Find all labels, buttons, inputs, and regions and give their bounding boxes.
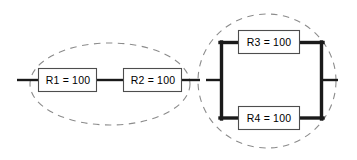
resistor-r3-label: R3 = 100 [247, 36, 292, 48]
resistor-r4: R4 = 100 [239, 107, 300, 130]
resistor-r2-label: R2 = 100 [131, 74, 176, 86]
resistor-r1-label: R1 = 100 [46, 74, 91, 86]
circuit-diagram: R1 = 100 R2 = 100 R3 = 100 R4 = 100 [0, 0, 357, 160]
resistor-r4-label: R4 = 100 [247, 112, 292, 124]
resistor-r2: R2 = 100 [124, 69, 182, 92]
resistor-r3: R3 = 100 [239, 31, 300, 54]
circuit-canvas: R1 = 100 R2 = 100 R3 = 100 R4 = 100 [0, 0, 357, 160]
resistor-r1: R1 = 100 [39, 69, 97, 92]
